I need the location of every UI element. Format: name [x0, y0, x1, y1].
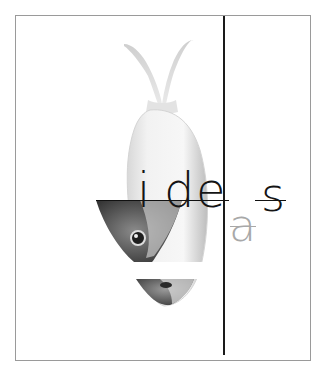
fish-tail	[124, 40, 194, 114]
fish-eye	[131, 231, 145, 245]
letter-e: e	[196, 166, 226, 214]
letter-d: d	[164, 166, 194, 214]
letter-i: i	[137, 166, 150, 214]
letter-s: s	[261, 172, 285, 218]
letter-a: a	[229, 204, 256, 248]
